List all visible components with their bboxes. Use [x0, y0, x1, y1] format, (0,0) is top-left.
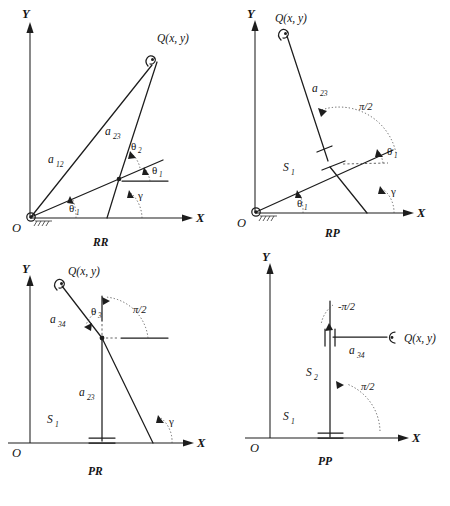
revolute-joint-origin-rp — [252, 208, 260, 216]
angle-arrow-pi2-pp — [336, 381, 344, 389]
axis-label-y-rp: Y — [247, 7, 256, 21]
svg-text:θ: θ — [131, 140, 136, 152]
link-label-a23-rp: a 23 — [312, 82, 328, 98]
angle-arrow-gamma-rp — [378, 186, 386, 194]
revolute-joint-q-pp — [389, 332, 395, 343]
svg-text:θ: θ — [91, 305, 96, 317]
axis-label-y-pp: Y — [262, 253, 271, 264]
svg-text:1: 1 — [394, 152, 398, 160]
link-label-s1-rp: S 1 — [283, 161, 295, 177]
origin-label-pp: O — [250, 441, 259, 455]
angle-arrow-neg-pi2-pp — [325, 323, 333, 331]
angle-label-gamma-pr: γ — [168, 415, 174, 427]
ground-hatch-rr — [34, 221, 52, 226]
svg-text:23: 23 — [113, 132, 121, 141]
axis-label-x-pr: X — [196, 436, 206, 450]
panel-pp: Y X O Q(x, y) a 34 — [225, 253, 450, 506]
axis-label-x-rp: X — [416, 206, 426, 220]
revolute-joint-q-rr — [146, 56, 155, 66]
revolute-joint-origin-rr — [27, 213, 35, 221]
svg-text:a: a — [48, 153, 54, 165]
angle-label-theta1-slider-rp: θ 1 — [387, 145, 398, 160]
panel-name-rp: RP — [324, 227, 341, 239]
angle-label-pi2-pr: π/2 — [133, 304, 147, 315]
angle-label-theta3-pr: θ 3 — [91, 305, 102, 320]
revolute-joint-elbow-pr — [100, 336, 105, 341]
svg-text:a: a — [105, 125, 111, 137]
link-s1-rp — [256, 150, 393, 212]
axis-label-y-rr: Y — [22, 7, 31, 21]
svg-text:S: S — [306, 366, 312, 378]
axis-x-rr — [30, 214, 193, 221]
svg-text:1: 1 — [304, 204, 308, 212]
angle-arc-neg-pi2-pp — [321, 305, 333, 325]
angle-label-theta1-origin-rp: θ 1 — [297, 197, 308, 212]
svg-text:a: a — [312, 82, 318, 94]
svg-text:1: 1 — [291, 168, 295, 177]
svg-text:2: 2 — [138, 147, 142, 155]
panel-rr: Y X O — [0, 0, 225, 253]
angle-arrow-pi2-pr — [102, 297, 110, 305]
svg-text:23: 23 — [87, 393, 95, 402]
svg-text:34: 34 — [57, 320, 66, 329]
angle-arrow-gamma-rr — [127, 190, 134, 198]
svg-text:θ: θ — [297, 197, 302, 209]
ground-hatch-rp — [259, 216, 277, 221]
svg-text:θ: θ — [152, 164, 157, 176]
svg-text:a: a — [79, 386, 85, 398]
origin-label-rr: O — [12, 221, 21, 235]
svg-text:3: 3 — [97, 312, 102, 320]
point-label-q-pr: Q(x, y) — [68, 265, 100, 278]
link-label-s1-pr: S 1 — [47, 413, 59, 429]
link-a23-rp — [287, 36, 328, 161]
angle-label-theta2-rr: θ 2 — [131, 140, 142, 155]
origin-label-pr: O — [12, 446, 21, 460]
link-label-a23-rr: a 23 — [105, 125, 121, 141]
axis-label-y-pr: Y — [22, 262, 31, 276]
axis-label-x-pp: X — [411, 431, 421, 445]
link-label-s1-pp: S 1 — [283, 410, 295, 426]
gamma-leg-pr — [102, 338, 153, 443]
slider-reference-line-rp — [343, 163, 388, 164]
angle-arrow-theta2-rr — [128, 151, 136, 159]
point-label-q-rr: Q(x, y) — [157, 32, 189, 45]
figure-root: Y X O — [0, 0, 450, 506]
angle-label-gamma-rr: γ — [137, 189, 143, 201]
angle-label-neg-pi2-pp: -π/2 — [338, 301, 356, 312]
svg-text:2: 2 — [314, 373, 318, 382]
revolute-joint-elbow-rr — [117, 177, 122, 182]
angle-arrow-gamma-pr — [156, 415, 164, 423]
panel-name-pp: PP — [318, 455, 333, 467]
link-label-s2-pp: S 2 — [306, 366, 318, 382]
origin-label-rp: O — [237, 216, 246, 230]
panel-name-pr: PR — [88, 465, 103, 477]
svg-text:1: 1 — [76, 209, 80, 217]
svg-text:23: 23 — [320, 89, 328, 98]
angle-arrow-theta1-slider-rp — [375, 149, 383, 157]
svg-text:12: 12 — [56, 160, 64, 169]
point-label-q-rp: Q(x, y) — [275, 12, 307, 25]
axis-x-rp — [255, 209, 414, 216]
svg-text:1: 1 — [159, 171, 163, 179]
axis-y-pp — [266, 263, 273, 438]
svg-text:S: S — [47, 413, 53, 425]
angle-label-gamma-rp: γ — [390, 185, 396, 197]
svg-text:θ: θ — [387, 145, 392, 157]
angle-label-theta1-elbow-rr: θ 1 — [152, 164, 163, 179]
gamma-leg-rr — [107, 179, 119, 218]
link-label-a34-pp: a 34 — [349, 344, 365, 360]
panel-pr: Y X O Q(x, y) — [0, 253, 225, 506]
svg-text:34: 34 — [356, 351, 365, 360]
link-label-a34-pr: a 34 — [50, 313, 66, 329]
svg-text:S: S — [283, 161, 289, 173]
axis-y-rp — [251, 20, 258, 213]
link-label-a23-pr: a 23 — [79, 386, 95, 402]
svg-text:1: 1 — [55, 420, 59, 429]
svg-text:a: a — [349, 344, 355, 356]
svg-text:1: 1 — [291, 417, 295, 426]
axis-y-rr — [26, 22, 33, 218]
link-label-a12-rr: a 12 — [48, 153, 64, 169]
axis-y-pr — [26, 275, 33, 443]
svg-text:θ: θ — [69, 202, 74, 214]
axis-label-x-rr: X — [195, 211, 205, 225]
